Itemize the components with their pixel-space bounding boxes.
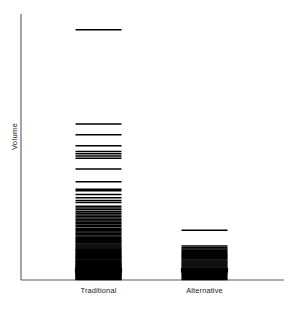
series-traditional	[76, 30, 122, 280]
chart-container: Volume Traditional Alternative	[0, 0, 299, 314]
chart-plot-area: Traditional Alternative	[0, 0, 299, 314]
series-alternative	[182, 230, 228, 279]
x-axis-category-label-alternative: Alternative	[186, 286, 223, 295]
x-axis-category-label-traditional: Traditional	[81, 286, 117, 295]
